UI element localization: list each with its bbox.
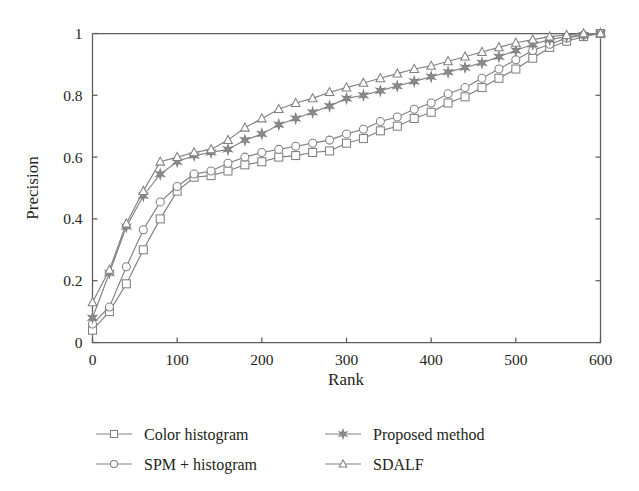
data-marker [110,460,117,467]
data-marker [495,65,503,73]
data-marker [326,147,334,155]
data-marker [309,139,317,147]
data-marker [359,135,367,143]
y-tick-label: 0.4 [63,210,83,227]
data-marker [410,114,418,122]
data-marker [376,118,384,126]
data-marker [207,167,215,175]
data-series-layer [88,29,605,335]
data-marker [110,430,117,437]
data-marker [241,161,249,169]
data-marker [529,54,537,62]
data-marker [495,74,503,82]
data-marker [427,99,435,107]
data-marker [139,186,148,194]
y-tick-label: 0.6 [63,149,83,166]
data-marker [139,246,147,254]
x-tick-label: 500 [504,351,528,368]
series-color-histogram [89,30,605,335]
data-marker [512,46,521,56]
data-marker [308,107,317,117]
data-marker [190,170,198,178]
data-marker [258,129,267,139]
data-marker [339,460,347,467]
data-marker [326,136,334,144]
y-axis-ticks [93,34,601,343]
data-marker [343,139,351,147]
data-marker [291,113,300,123]
legend-item-sdalf[interactable]: SDALF [325,456,424,473]
legend-label: Proposed method [373,426,485,444]
data-marker [427,72,436,82]
x-tick-label: 600 [589,351,613,368]
legend-item-color-histogram[interactable]: Color histogram [96,426,249,444]
x-tick-label: 100 [166,351,190,368]
series-sdalf [88,29,605,306]
data-marker [393,113,401,121]
x-axis-ticks [93,338,601,343]
legend-item-spm-histogram[interactable]: SPM + histogram [96,456,258,474]
x-tick-label: 0 [89,351,97,368]
data-marker [105,265,114,273]
data-marker [224,135,233,143]
data-marker [461,93,469,101]
data-marker [258,148,266,156]
data-marker [309,148,317,156]
data-marker [376,127,384,135]
data-marker [156,198,164,206]
data-marker [105,303,113,311]
y-tick-label: 0.2 [63,272,82,289]
chart-legend: Color histogramSPM + histogramProposed m… [96,426,485,474]
data-marker [224,167,232,175]
legend-label: SPM + histogram [144,456,258,474]
y-tick-label: 0.8 [63,87,83,104]
data-marker [224,159,232,167]
data-marker [292,142,300,150]
data-marker [478,58,487,68]
data-marker [444,90,452,98]
y-tick-label: 1 [75,25,83,42]
data-marker [139,226,147,234]
data-marker [122,263,130,271]
data-marker [410,105,418,113]
data-marker [393,122,401,130]
data-marker [376,86,385,96]
y-axis-tick-labels: 00.20.40.60.81 [63,25,83,351]
x-tick-label: 400 [420,351,444,368]
data-marker [410,76,419,86]
x-axis-title: Rank [328,370,364,389]
data-marker [292,152,300,160]
data-marker [274,120,283,130]
series-line [93,34,601,324]
data-marker [478,84,486,92]
data-marker [207,145,216,153]
precision-rank-chart: 0100200300400500600 00.20.40.60.81 Rank … [0,0,639,491]
data-marker [495,52,504,62]
plot-axes [93,34,601,343]
series-proposed-method [88,29,605,323]
data-marker [325,101,334,111]
legend-item-proposed-method[interactable]: Proposed method [325,426,485,444]
data-marker [241,123,250,131]
data-marker [275,153,283,161]
data-marker [156,215,164,223]
data-marker [88,298,97,306]
x-tick-label: 200 [250,351,274,368]
x-tick-label: 300 [335,351,359,368]
data-marker [427,108,435,116]
data-marker [393,81,402,91]
series-line [93,34,601,331]
data-marker [122,280,130,288]
legend-label: SDALF [373,456,424,473]
series-spm-histogram [89,30,605,328]
x-axis-tick-labels: 0100200300400500600 [89,351,613,368]
data-marker [444,99,452,107]
data-marker [343,130,351,138]
legend-label: Color histogram [144,426,249,444]
data-marker [512,65,520,73]
y-tick-label: 0 [75,334,83,351]
data-marker [478,74,486,82]
data-marker [359,125,367,133]
y-axis-title: Precision [23,156,42,220]
data-marker [173,182,181,190]
